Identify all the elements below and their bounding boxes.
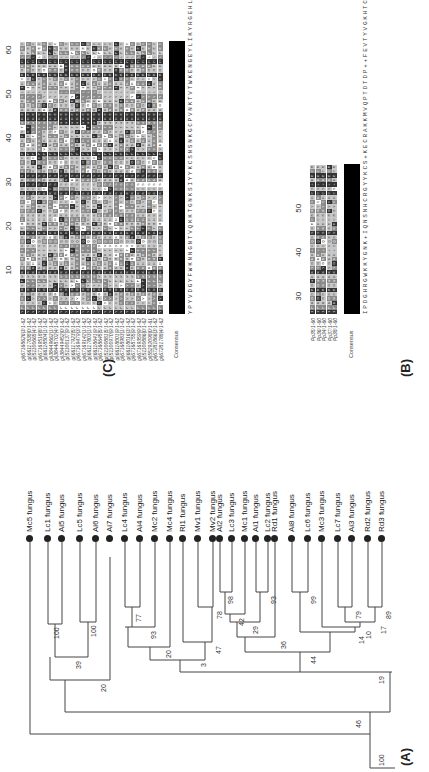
tree-leaf: Lc6 fungus — [303, 493, 312, 542]
sequence-name: gi|67281788|4/1-62 — [158, 318, 164, 380]
tree-leaf: Ai5 fungus — [57, 494, 66, 542]
tree-leaf: Ai3 fungus — [347, 494, 356, 542]
leaf-label: Lc7 fungus — [333, 493, 342, 532]
sequence-row: IPDGHRGWKKYGNK+IQNSNHCRGYYKCS+KECR — [327, 165, 332, 314]
sequence-row: IPDGHRGWKKYGNK+IQNSNHCRGYYKCS+KECR — [316, 165, 321, 314]
sequence-row: YPYVDGYFWKNNGNTVQKKTGNKSIYYKCSNSNKGCPVNK… — [141, 42, 146, 314]
leaf-node-icon — [304, 535, 311, 542]
bootstrap-value: 20 — [100, 684, 107, 692]
leaf-label: Mc5 fungus — [25, 491, 34, 532]
tree-leaf: Lc5 fungus — [75, 493, 84, 542]
leaf-node-icon — [378, 535, 385, 542]
leaf-label: Mc4 fungus — [165, 491, 174, 532]
leaf-label: Lc3 fungus — [227, 493, 236, 532]
bootstrap-value: 10 — [365, 631, 372, 639]
bootstrap-value: 46 — [355, 720, 362, 728]
leaf-node-icon — [179, 535, 186, 542]
sequence-row: IPDGHRGWKKYGNK+IQNSNHCRGYYKCS+KECR — [310, 165, 315, 314]
sequence-row: YPYVDGYFWKNNGNTVQKKTGNKSIYYKCSNSNKGCPVNK… — [31, 42, 36, 314]
leaf-node-icon — [136, 535, 143, 542]
bootstrap-value: 14 — [358, 636, 365, 644]
tree-leaf: Mc5 fungus — [25, 491, 34, 542]
leaf-label: Ri1 fungus — [178, 494, 187, 532]
bootstrap-value: 29 — [252, 626, 259, 634]
position-tick: 60 — [4, 46, 13, 55]
sequence-row: YPYVDGYFWKNNGNTVQKKTGNKSIYYKCSNSNKGCPVNK… — [26, 42, 31, 314]
sequence-row: YPYVDGYFWKNNGNTVQKKTGNKSIYYKCSNSNKGCPVNK… — [64, 42, 69, 314]
tree-leaf: Mc3 fungus — [317, 491, 326, 542]
sequence-row: YPYVDGYFWKNNGNTVQKKTGNKSIYYKCSNSNKGCPVNK… — [130, 42, 135, 314]
leaf-node-icon — [76, 535, 83, 542]
bootstrap-value: 17 — [380, 626, 387, 634]
leaf-node-icon — [216, 535, 223, 542]
sequence-row: YPYVDGYFWKNNGNTVQKKTGNKSIYYKCSNSNKGCPVNK… — [147, 42, 152, 314]
position-tick: 50 — [294, 204, 303, 213]
consensus-histogram — [344, 164, 360, 314]
consensus-label: Consensus — [173, 330, 179, 358]
bootstrap-value: 99 — [310, 596, 317, 604]
leaf-node-icon — [364, 535, 371, 542]
bootstrap-value: 78 — [216, 611, 223, 619]
leaf-label: Lc6 fungus — [303, 493, 312, 532]
leaf-label: Mc2 fungus — [150, 491, 159, 532]
leaf-node-icon — [288, 535, 295, 542]
leaf-node-icon — [348, 535, 355, 542]
leaf-label: Lc5 fungus — [75, 493, 84, 532]
bootstrap-value: 47 — [215, 646, 222, 654]
leaf-node-icon — [194, 535, 201, 542]
consensus-sequence: IPDGHRGWKKYGNK+IQNSNHCRGYYKCS+KECRAKKMVQ… — [362, 0, 369, 314]
leaf-label: Rd1 fungus — [270, 491, 279, 532]
leaf-node-icon — [121, 535, 128, 542]
leaf-label: Rd3 fungus — [377, 491, 386, 532]
tree-leaf: Ai6 fungus — [91, 494, 100, 542]
bootstrap-value: 100 — [53, 627, 60, 639]
bootstrap-value: 79 — [355, 611, 362, 619]
leaf-node-icon — [151, 535, 158, 542]
leaf-node-icon — [92, 535, 99, 542]
leaf-node-icon — [334, 535, 341, 542]
bootstrap-value: 44 — [310, 656, 317, 664]
sequence-row: YPYVDGYFWKNNGNTVQKKTGNKSIYYKCSNSNKGCPVNK… — [152, 42, 157, 314]
bootstrap-value: 42 — [238, 618, 245, 626]
sequence-name: Pp38/1-60 — [332, 318, 338, 380]
sequence-row: YPYVDGYFWKNNGNTVQKKTGNKSIYYKCSNSNKGCPVNK… — [158, 42, 163, 314]
sequence-row: IPDGHRGWKKYGNK+IQNSNHCRGYYKCS+KECR — [321, 165, 326, 314]
tree-leaf: Rd2 fungus — [363, 491, 372, 542]
sequence-row: YPYVDGYFWKNNGNTVQKKTGNKSIYYKCSNSNKGCPVNK… — [86, 42, 91, 314]
bootstrap-value: 100 — [90, 625, 97, 637]
figure: (A) — [0, 0, 429, 772]
bootstrap-value: 98 — [227, 596, 234, 604]
sequence-row: YPYVDGYFWKNNGNTVQKKTGNKSIYYKCSNSNKGCPVNK… — [81, 42, 86, 314]
leaf-label: Mv1 fungus — [193, 491, 202, 532]
tree-leaf: Lc7 fungus — [333, 493, 342, 542]
bootstrap-value: 93 — [150, 631, 157, 639]
sequence-row: YPYVDGYFWKNNGNTVQKKTGNKSIYYKCSNSNKGCPVNK… — [75, 42, 80, 314]
sequence-row: YPYVDGYFWKNNGNTVQKKTGNKSIYYKCSNSNKGCPVNK… — [59, 42, 64, 314]
leaf-node-icon — [271, 535, 278, 542]
tree-leaf: Lc1 fungus — [43, 493, 52, 542]
sequence-row: YPYVDGYFWKNNGNTVQKKTGNKSIYYKCSNSNKGCPVNK… — [48, 42, 53, 314]
bootstrap-value: 3 — [200, 663, 207, 667]
tree-leaf: Mv1 fungus — [193, 491, 202, 542]
sequence-row: YPYVDGYFWKNNGNTVQKKTGNKSIYYKCSNSNKGCPVNK… — [42, 42, 47, 314]
leaf-node-icon — [44, 535, 51, 542]
position-tick: 50 — [4, 90, 13, 99]
consensus-label: Consensus — [348, 330, 354, 358]
leaf-label: Ai7 fungus — [105, 494, 114, 532]
leaf-label: Ai3 fungus — [347, 494, 356, 532]
tree-leaf: Rd1 fungus — [270, 491, 279, 542]
sequence-row: YPYVDGYFWKNNGNTVQKKTGNKSIYYKCSNSNKGCPVNK… — [136, 42, 141, 314]
sequence-row: YPYVDGYFWKNNGNTVQKKTGNKSIYYKCSNSNKGCPVNK… — [108, 42, 113, 314]
leaf-node-icon — [106, 535, 113, 542]
tree-leaf: Ai8 fungus — [287, 494, 296, 542]
position-tick: 20 — [4, 222, 13, 231]
sequence-row: YPYVDGYFWKNNGNTVQKKTGNKSIYYKCSNSNKGCPVNK… — [70, 42, 75, 314]
leaf-node-icon — [318, 535, 325, 542]
leaf-label: Ai2 fungus — [215, 494, 224, 532]
bootstrap-value: 77 — [135, 614, 142, 622]
sequence-row: YPYVDGYFWKNNGNTVQKKTGNKSIYYKCSNSNKGCPVNK… — [103, 42, 108, 314]
leaf-label: Lc4 fungus — [120, 493, 129, 532]
leaf-node-icon — [26, 535, 33, 542]
leaf-label: Mc1 fungus — [240, 491, 249, 532]
tree-leaf: Mc1 fungus — [240, 491, 249, 542]
